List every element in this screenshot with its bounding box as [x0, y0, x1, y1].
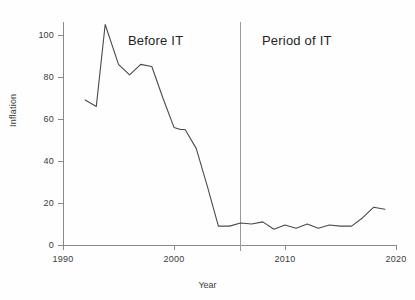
- inflation-series-line: [85, 25, 385, 230]
- y-tick-label-20: 20: [22, 198, 54, 208]
- y-tick-label-80: 80: [22, 72, 54, 82]
- y-tick-label-100: 100: [22, 30, 54, 40]
- x-tick-label-2020: 2020: [376, 254, 415, 264]
- y-axis-title: Inflation: [8, 94, 18, 127]
- x-tick-label-2010: 2010: [265, 254, 305, 264]
- x-tick-label-2000: 2000: [154, 254, 194, 264]
- y-tick-label-0: 0: [22, 240, 54, 250]
- y-tick-label-40: 40: [22, 156, 54, 166]
- x-tick-label-1990: 1990: [43, 254, 83, 264]
- inflation-line-chart: 100 80 60 40 20 0 1990 2000 2010 2020 In…: [0, 0, 415, 300]
- axes-group: [58, 22, 397, 250]
- annotation-period-of-it: Period of IT: [262, 33, 332, 48]
- y-tick-label-60: 60: [22, 114, 54, 124]
- annotation-before-it: Before IT: [128, 33, 183, 48]
- x-axis-title: Year: [0, 280, 415, 290]
